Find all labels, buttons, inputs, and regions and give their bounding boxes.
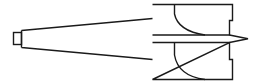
taper-shank	[22, 21, 132, 58]
tool-drawing	[0, 0, 262, 83]
taper-shank-extension	[131, 19, 153, 60]
diagram-canvas	[0, 0, 262, 83]
tang	[14, 33, 22, 45]
center-point	[153, 35, 249, 43]
upper-flute	[175, 5, 206, 36]
